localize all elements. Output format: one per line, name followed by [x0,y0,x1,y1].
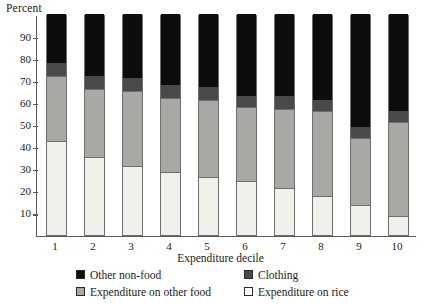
bar-segment-clothing [123,78,142,91]
x-axis-tick-label-1: 1 [40,240,70,252]
y-axis-tick-mark [33,104,38,105]
bar-segment-expenditure-on-other-food [351,138,370,207]
y-axis-tick-mark [33,192,38,193]
bar-decile-7[interactable] [274,15,295,236]
bar-decile-6[interactable] [236,15,257,236]
x-axis-tick-label-2: 2 [78,240,108,252]
legend-label: Other non-food [90,269,161,281]
y-axis-tick-label: 80 [5,53,31,65]
bar-segment-expenditure-on-rice [313,197,332,235]
bar-segment-expenditure-on-other-food [47,76,66,142]
x-axis-tick-label-4: 4 [154,240,184,252]
bar-decile-2[interactable] [84,15,105,236]
legend-item-expenditure-on-rice[interactable]: Expenditure on rice [244,283,376,300]
bar-segment-expenditure-on-rice [237,182,256,235]
x-axis-title: Expenditure decile [0,252,441,264]
bar-segment-expenditure-on-rice [275,189,294,235]
bar-segment-other-non-food [123,14,142,78]
x-axis-tick-label-8: 8 [306,240,336,252]
y-axis-tick-label: 20 [5,185,31,197]
bar-segment-expenditure-on-rice [47,142,66,235]
y-axis-tick-label: 90 [5,31,31,43]
x-axis-tick-label-6: 6 [230,240,260,252]
bar-decile-9[interactable] [350,15,371,236]
bar-decile-5[interactable] [198,15,219,236]
bar-segment-expenditure-on-other-food [389,122,408,217]
y-axis-tick-mark [33,170,38,171]
bar-segment-other-non-food [161,14,180,85]
bar-decile-3[interactable] [122,15,143,236]
bar-segment-other-non-food [199,14,218,87]
bar-segment-expenditure-on-rice [123,167,142,236]
bar-segment-clothing [161,85,180,98]
bar-segment-clothing [351,127,370,138]
x-axis-tick-label-5: 5 [192,240,222,252]
y-axis-tick-label: 10 [5,207,31,219]
legend-label: Expenditure on other food [90,286,211,298]
y-axis-title: Percent [6,2,42,14]
y-axis-tick-mark [33,214,38,215]
white-swatch [244,287,253,296]
legend-item-other-non-food[interactable]: Other non-food [76,266,244,283]
bar-segment-other-non-food [47,14,66,63]
legend-item-clothing[interactable]: Clothing [244,266,376,283]
bar-segment-expenditure-on-other-food [275,109,294,189]
bar-segment-other-non-food [237,14,256,96]
bar-segment-clothing [85,76,104,89]
x-axis-tick-label-9: 9 [344,240,374,252]
bar-segment-clothing [47,63,66,76]
bar-segment-clothing [313,100,332,111]
bar-segment-clothing [389,111,408,122]
legend-item-expenditure-on-other-food[interactable]: Expenditure on other food [76,283,244,300]
bar-segment-expenditure-on-other-food [161,98,180,173]
bar-segment-clothing [237,96,256,107]
y-axis-tick-label: 70 [5,75,31,87]
bar-segment-expenditure-on-other-food [123,91,142,166]
bar-segment-other-non-food [313,14,332,100]
x-axis-tick-label-7: 7 [268,240,298,252]
chart-legend: Other non-foodClothingExpenditure on oth… [76,266,376,300]
bar-decile-10[interactable] [388,15,409,236]
y-axis-tick-label: 40 [5,141,31,153]
legend-label: Expenditure on rice [258,286,349,298]
bar-segment-other-non-food [275,14,294,96]
bar-segment-expenditure-on-other-food [313,111,332,197]
bar-segment-expenditure-on-rice [161,173,180,235]
medium-gray-swatch [76,287,85,296]
bar-segment-other-non-food [389,14,408,111]
x-axis-tick-label-3: 3 [116,240,146,252]
y-axis-tick-mark [33,82,38,83]
legend-label: Clothing [258,269,298,281]
bar-segment-expenditure-on-other-food [85,89,104,158]
y-axis-tick-mark [33,148,38,149]
x-axis-tick-label-10: 10 [382,240,412,252]
y-axis-tick-label: 30 [5,163,31,175]
bar-segment-expenditure-on-rice [351,206,370,235]
bar-decile-1[interactable] [46,15,67,236]
bar-segment-expenditure-on-rice [389,217,408,235]
bar-segment-expenditure-on-other-food [237,107,256,182]
bar-segment-other-non-food [85,14,104,76]
y-axis-tick-mark [33,126,38,127]
y-axis-tick-mark [33,60,38,61]
bar-segment-expenditure-on-rice [85,158,104,235]
y-axis-tick-mark [33,38,38,39]
dark-gray-swatch [244,270,253,279]
bar-decile-8[interactable] [312,15,333,236]
black-swatch [76,270,85,279]
bar-decile-4[interactable] [160,15,181,236]
y-axis-tick-label: 60 [5,97,31,109]
plot-area: 102030405060708090 [36,16,416,237]
bar-segment-clothing [199,87,218,100]
bar-segment-other-non-food [351,14,370,127]
bar-segment-expenditure-on-rice [199,178,218,235]
stacked-bar-chart: Percent 102030405060708090 12345678910 E… [0,0,441,307]
bar-segment-expenditure-on-other-food [199,100,218,177]
y-axis-tick-label: 50 [5,119,31,131]
bar-segment-clothing [275,96,294,109]
